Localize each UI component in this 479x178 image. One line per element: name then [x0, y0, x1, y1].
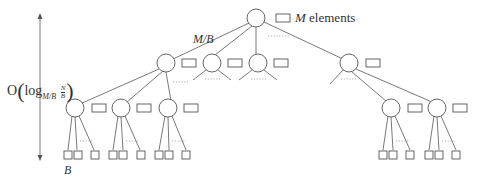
leaf-blocks	[64, 151, 460, 159]
fanout-label: M/B	[193, 33, 214, 45]
level2-edges	[68, 116, 456, 150]
level2-nodes	[66, 99, 467, 117]
frac-den: B	[61, 93, 66, 100]
big-o: O	[7, 83, 17, 98]
log-base: M/B	[42, 92, 56, 101]
elements-text: elements	[309, 10, 355, 25]
height-label: O(logM/B NB)	[7, 78, 74, 104]
log-text: log	[24, 83, 42, 98]
m-var: M	[295, 10, 306, 25]
fraction: NB	[61, 85, 66, 100]
root-buffer-label: M elements	[295, 11, 355, 24]
level1-edges	[80, 69, 432, 104]
level1-nodes	[157, 54, 380, 72]
block-size-label: B	[64, 164, 71, 176]
